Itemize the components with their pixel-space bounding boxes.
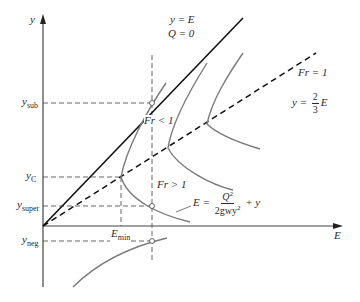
y-sub-point	[150, 101, 155, 106]
fraction-denominator: 3	[313, 104, 318, 115]
y-neg-subscript: neg	[27, 239, 39, 248]
critical-line-equation: y = 23E	[292, 92, 328, 115]
y-super-subscript: super	[22, 204, 39, 213]
critical-depth-line	[43, 53, 316, 226]
equation-leader	[176, 206, 191, 212]
y-c-label: yC	[26, 170, 36, 184]
y-super-label: ysuper	[17, 199, 39, 213]
diagram-svg	[0, 0, 360, 302]
two-thirds-fraction: 23	[312, 92, 319, 115]
q-exponent: 2	[229, 190, 233, 198]
y-c-subscript: C	[31, 175, 36, 184]
energy-curve-2	[168, 63, 233, 190]
energy-curve-3	[207, 53, 260, 149]
energy-eq-numerator: Q2	[221, 191, 234, 204]
denominator-text: 2gwy	[215, 206, 237, 217]
energy-eq-fraction: Q22gwy2	[215, 191, 241, 217]
energy-eq-rhs: + y	[242, 196, 260, 208]
critical-eq-prefix: y =	[292, 96, 310, 108]
energy-equation: E = Q22gwy2 + y	[193, 191, 260, 217]
fraction-numerator: 2	[312, 92, 319, 104]
e-min-subscript: min	[118, 233, 130, 242]
subcritical-region-label: Fr < 1	[144, 115, 173, 126]
specific-energy-diagram: y E y = E Q = 0 Fr = 1 y = 23E Fr < 1 Fr…	[0, 0, 360, 302]
e-min-base: E	[111, 227, 118, 239]
q-zero-label: Q = 0	[168, 28, 194, 39]
y-neg-label: yneg	[22, 234, 38, 248]
critical-eq-suffix: E	[321, 96, 328, 108]
y-equals-e-label: y = E	[170, 14, 195, 25]
fr-equals-one-label: Fr = 1	[298, 67, 327, 78]
e-min-label: Emin	[110, 228, 131, 242]
y-axis-arrow-icon	[40, 14, 46, 24]
y-super-point	[150, 204, 155, 209]
negative-depth-curve	[73, 238, 167, 287]
y-axis-label: y	[30, 14, 35, 25]
y-neg-point	[150, 239, 155, 244]
y-exponent: 2	[237, 204, 241, 212]
energy-curve-1	[121, 83, 190, 222]
e-axis-label: E	[334, 230, 341, 241]
energy-eq-lhs: E =	[193, 196, 213, 208]
y-sub-label: ysub	[22, 96, 38, 110]
supercritical-region-label: Fr > 1	[157, 179, 186, 190]
y-sub-subscript: sub	[27, 101, 38, 110]
energy-eq-denominator: 2gwy2	[215, 204, 241, 216]
